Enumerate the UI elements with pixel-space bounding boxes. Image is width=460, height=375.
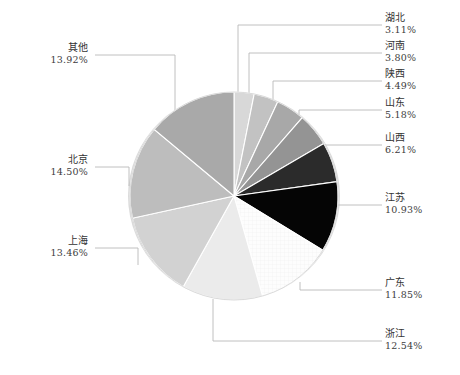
pie-label-henan-name: 河南 xyxy=(385,40,416,52)
pie-label-shanghai-value: 13.46% xyxy=(51,247,88,259)
leader-line-beijing xyxy=(95,167,129,186)
pie-label-beijing: 北京 14.50% xyxy=(51,154,88,178)
pie-label-shanghai: 上海 13.46% xyxy=(51,235,88,259)
pie-label-other: 其他 13.92% xyxy=(51,42,88,66)
pie-label-zhejiang: 浙江 12.54% xyxy=(385,328,422,352)
pie-label-shaanxi: 陕西 4.49% xyxy=(385,68,416,92)
pie-label-shaanxi-value: 4.49% xyxy=(385,80,416,92)
pie-label-jiangsu-value: 10.93% xyxy=(385,204,422,216)
pie-label-guangdong-value: 11.85% xyxy=(385,289,422,301)
pie-label-shandong-name: 山东 xyxy=(385,97,416,109)
leader-line-other xyxy=(95,55,175,110)
pie-label-hubei-name: 湖北 xyxy=(385,12,416,24)
pie-label-shandong-value: 5.18% xyxy=(385,109,416,121)
pie-label-hubei-value: 3.11% xyxy=(385,24,416,36)
pie-label-beijing-value: 14.50% xyxy=(51,166,88,178)
pie-label-shanxi: 山西 6.21% xyxy=(385,132,416,156)
pie-label-guangdong: 广东 11.85% xyxy=(385,277,422,301)
leader-line-zhejiang xyxy=(213,299,382,341)
pie-label-guangdong-name: 广东 xyxy=(385,277,422,289)
leader-line-shanghai xyxy=(95,248,138,265)
leader-line-shandong xyxy=(299,110,382,116)
pie-label-jiangsu: 江苏 10.93% xyxy=(385,192,422,216)
leader-line-guangdong xyxy=(300,282,382,290)
pie-label-hubei: 湖北 3.11% xyxy=(385,12,416,36)
pie-label-zhejiang-value: 12.54% xyxy=(385,340,422,352)
leader-line-henan xyxy=(249,53,382,97)
leader-line-hubei xyxy=(238,25,382,95)
pie-label-henan: 河南 3.80% xyxy=(385,40,416,64)
pie-label-shanghai-name: 上海 xyxy=(51,235,88,247)
pie-label-shanxi-value: 6.21% xyxy=(385,144,416,156)
leader-line-shaanxi xyxy=(273,81,382,101)
pie-label-shandong: 山东 5.18% xyxy=(385,97,416,121)
pie-label-other-value: 13.92% xyxy=(51,54,88,66)
pie-label-beijing-name: 北京 xyxy=(51,154,88,166)
pie-chart-figure: 湖北 3.11% 河南 3.80% 陕西 4.49% 山东 5.18% 山西 6… xyxy=(0,0,460,375)
pie-label-henan-value: 3.80% xyxy=(385,52,416,64)
pie-label-shaanxi-name: 陕西 xyxy=(385,68,416,80)
pie-label-other-name: 其他 xyxy=(51,42,88,54)
pie-label-jiangsu-name: 江苏 xyxy=(385,192,422,204)
pie-label-shanxi-name: 山西 xyxy=(385,132,416,144)
pie-slice-group xyxy=(130,92,338,300)
pie-label-zhejiang-name: 浙江 xyxy=(385,328,422,340)
